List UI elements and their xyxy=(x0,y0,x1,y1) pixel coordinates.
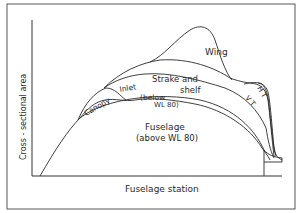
tail-end xyxy=(264,150,282,162)
label-inlet: Inlet xyxy=(119,82,137,94)
label-vt: V T xyxy=(243,94,257,108)
label-canopy: Canopy xyxy=(83,95,113,117)
area-ruling-diagram: Wing Strake and shelf Inlet (below WL 80… xyxy=(0,0,302,213)
y-axis-label: Cross - sectional area xyxy=(19,74,28,160)
x-axis-label: Fuselage station xyxy=(125,184,199,194)
label-fuselage-2: (above WL 80) xyxy=(136,133,198,143)
label-wing: Wing xyxy=(205,47,228,57)
label-fuselage-1: Fuselage xyxy=(145,122,185,132)
label-strake-1: Strake and xyxy=(152,74,198,84)
label-strake-2: shelf xyxy=(180,85,201,95)
label-below-2: WL 80) xyxy=(154,101,179,109)
diagram-container: Wing Strake and shelf Inlet (below WL 80… xyxy=(0,0,302,213)
label-ht: H T xyxy=(255,85,268,100)
